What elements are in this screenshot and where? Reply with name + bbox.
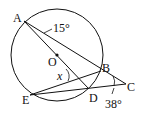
angle-x-arc: [66, 69, 69, 81]
angle-a-leader: [44, 29, 52, 33]
segment-ec: [30, 84, 126, 95]
label-c: C: [127, 80, 135, 94]
geometry-diagram: A B C D E O 15° 38° x: [0, 0, 143, 115]
label-b: B: [102, 61, 110, 75]
angle-x-label: x: [56, 69, 63, 83]
angle-a-label: 15°: [53, 21, 70, 35]
angle-c-arc: [113, 76, 115, 86]
angle-c-label: 38°: [105, 97, 122, 111]
label-o: O: [48, 55, 57, 69]
label-e: E: [22, 93, 29, 107]
label-d: D: [89, 91, 98, 105]
label-a: A: [13, 11, 22, 25]
angle-c-leader: [112, 88, 114, 94]
